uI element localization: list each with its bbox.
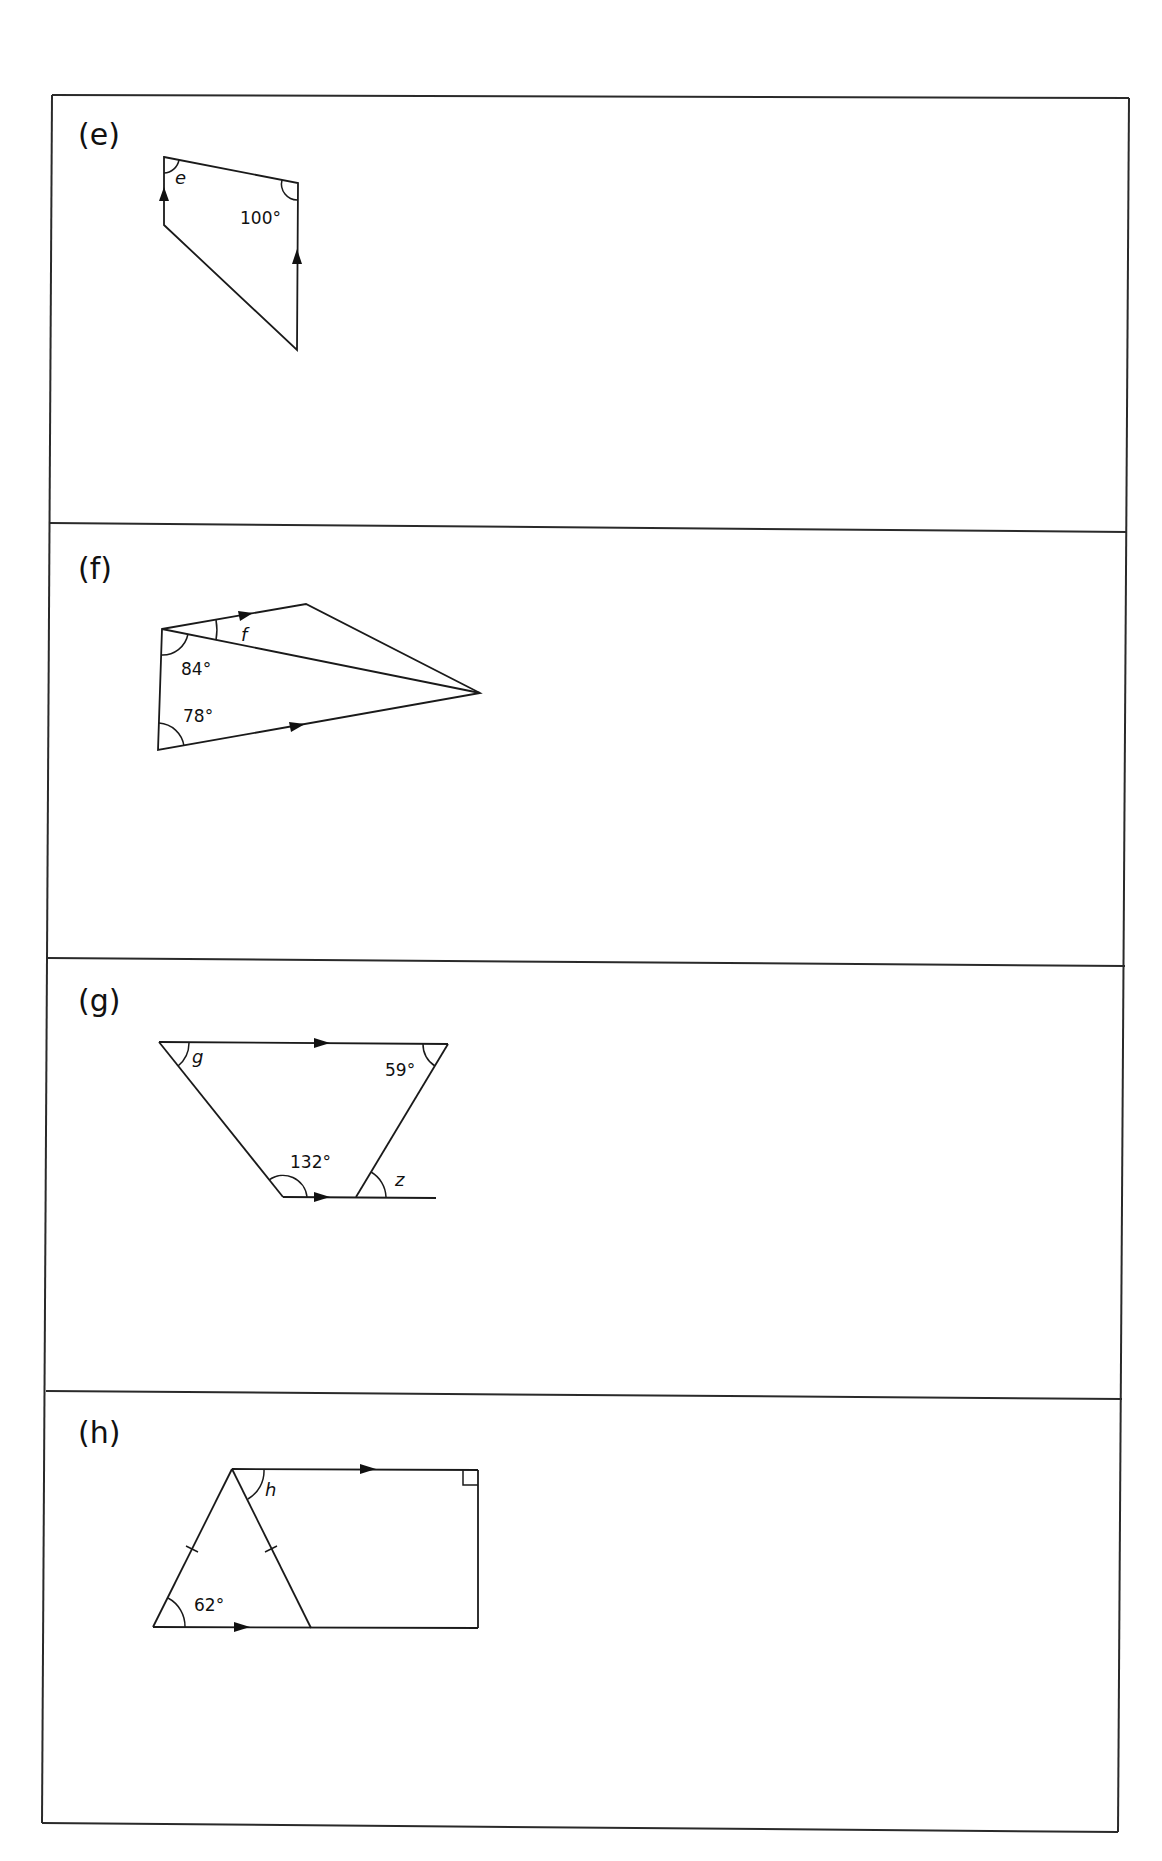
- angle-arc-g: [178, 1043, 189, 1066]
- divider-e-f: [50, 523, 1127, 532]
- angle-arc-f: [216, 620, 217, 640]
- parallel-arrow-icon: [314, 1192, 330, 1202]
- angle-label-132: 132°: [290, 1152, 331, 1172]
- outer-frame: [42, 95, 1129, 1832]
- angle-arc-59: [423, 1044, 435, 1066]
- angle-label-84: 84°: [181, 659, 211, 679]
- angle-arc-84: [161, 634, 188, 655]
- panel-dividers: [46, 523, 1127, 1399]
- angle-label-e: e: [175, 167, 186, 188]
- worksheet-page: (e) e 100° (f): [0, 0, 1162, 1861]
- divider-g-h: [46, 1391, 1122, 1399]
- parallel-arrow-icon: [234, 1622, 250, 1632]
- parallel-arrow-icon: [360, 1464, 376, 1474]
- angle-label-100: 100°: [240, 208, 281, 228]
- angle-label-78: 78°: [183, 706, 213, 726]
- divider-f-g: [48, 958, 1125, 966]
- worksheet-canvas: (e) e 100° (f): [0, 0, 1162, 1861]
- part-label-h: (h): [78, 1415, 120, 1450]
- angle-arc-z: [371, 1172, 386, 1197]
- angle-label-h: h: [265, 1479, 276, 1500]
- angle-arc-h: [248, 1470, 264, 1499]
- panel-g: (g) g 59° 132° z: [78, 983, 448, 1202]
- parallel-arrow-icon: [159, 187, 169, 201]
- angle-arc-62: [168, 1598, 185, 1627]
- part-label-e: (e): [78, 117, 120, 152]
- angle-arc-78: [159, 723, 184, 746]
- panel-e: (e) e 100°: [78, 117, 302, 350]
- angle-label-59: 59°: [385, 1060, 415, 1080]
- equal-tick-mark: [186, 1546, 198, 1552]
- panel-f: (f) f 84° 78°: [78, 551, 480, 750]
- parallel-arrow-icon: [292, 249, 302, 264]
- parallel-arrow-icon: [238, 611, 253, 621]
- part-label-f: (f): [78, 551, 112, 586]
- right-angle-marker: [463, 1470, 478, 1485]
- parallel-arrow-icon: [314, 1038, 330, 1048]
- angle-label-62: 62°: [194, 1595, 224, 1615]
- angle-label-f: f: [241, 624, 250, 645]
- part-label-g: (g): [78, 983, 120, 1018]
- angle-label-z: z: [394, 1169, 405, 1190]
- angle-label-g: g: [192, 1046, 203, 1067]
- panel-h: (h): [78, 1415, 478, 1632]
